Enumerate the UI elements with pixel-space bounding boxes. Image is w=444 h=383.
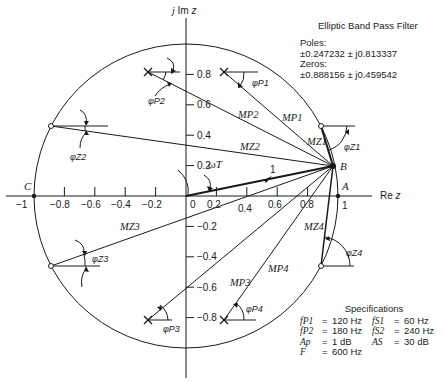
svg-text:−0.8: −0.8 xyxy=(50,199,70,210)
svg-text:φP4: φP4 xyxy=(246,304,263,314)
unit-length-label: 1 xyxy=(270,164,276,175)
svg-text:φP1: φP1 xyxy=(252,78,269,88)
spec-symbol: fP1 xyxy=(300,316,322,327)
svg-text:0: 0 xyxy=(190,199,196,210)
svg-text:φZ1: φZ1 xyxy=(344,142,360,152)
zero-z4-icon xyxy=(319,264,324,269)
zero-z1-icon xyxy=(319,124,324,129)
poles-label: Poles: xyxy=(300,38,397,49)
svg-text:φZ2: φZ2 xyxy=(70,152,86,162)
svg-text:MP4: MP4 xyxy=(267,263,289,274)
svg-text:0.6: 0.6 xyxy=(268,199,282,210)
svg-text:−0.6: −0.6 xyxy=(197,282,217,293)
point-b-label: B xyxy=(340,160,347,172)
imag-axis-label: j Im z xyxy=(170,5,196,16)
svg-text:MZ1: MZ1 xyxy=(306,136,327,147)
point-a-dot xyxy=(336,194,340,198)
svg-text:MZ3: MZ3 xyxy=(119,221,140,232)
point-c-label: C xyxy=(24,180,32,192)
vector-mz3 xyxy=(51,166,333,266)
spec-value: 180 Hz xyxy=(332,326,362,337)
svg-text:0.4: 0.4 xyxy=(197,130,211,141)
svg-text:MP3: MP3 xyxy=(229,277,250,288)
svg-text:φP2: φP2 xyxy=(148,96,165,106)
svg-text:0.4: 0.4 xyxy=(238,203,252,214)
svg-text:−0.2: −0.2 xyxy=(197,221,217,232)
svg-text:−0.4: −0.4 xyxy=(111,199,131,210)
spec-symbol: fS2 xyxy=(372,326,394,337)
svg-text:−0.6: −0.6 xyxy=(81,199,101,210)
specifications-heading: Specifications xyxy=(304,304,444,315)
omega-t-label: ωT xyxy=(208,158,223,170)
specifications-panel: Specifications fP1=120 Hz fS1=60 Hz fP2=… xyxy=(300,304,444,358)
svg-text:−0.4: −0.4 xyxy=(197,251,217,262)
spec-symbol: Ap xyxy=(300,337,322,348)
svg-text:−1: −1 xyxy=(16,199,28,210)
spec-symbol: fS1 xyxy=(372,316,394,327)
roots-panel: Poles: ±0.247232 ± j0.813337 Zeros: ±0.8… xyxy=(300,38,397,80)
omega-t-leader xyxy=(204,175,210,188)
zero-z2-icon xyxy=(49,124,54,129)
vector-mz2 xyxy=(51,126,333,166)
svg-text:φP3: φP3 xyxy=(163,324,180,334)
svg-text:0.8: 0.8 xyxy=(197,69,211,80)
svg-text:1: 1 xyxy=(342,200,348,211)
spec-value: 600 Hz xyxy=(332,347,362,358)
zeros-value: ±0.888156 ± j0.459542 xyxy=(300,70,397,81)
point-a-label: A xyxy=(341,180,349,192)
real-axis-label: Re z xyxy=(380,190,401,201)
point-c-dot xyxy=(32,194,36,198)
spec-symbol: F xyxy=(300,347,322,358)
svg-text:−0.2: −0.2 xyxy=(142,199,162,210)
svg-text:MP1: MP1 xyxy=(281,112,302,123)
spec-value: 240 Hz xyxy=(404,326,434,337)
spec-row: fP2=180 Hz fS2=240 Hz xyxy=(300,326,444,337)
point-b-dot xyxy=(330,163,336,169)
svg-text:φZ3: φZ3 xyxy=(92,254,108,264)
svg-text:−0.8: −0.8 xyxy=(197,312,217,323)
spec-value: 30 dB xyxy=(404,337,429,348)
svg-text:φZ4: φZ4 xyxy=(346,248,362,258)
svg-text:MZ4: MZ4 xyxy=(303,221,325,232)
zero-z3-icon xyxy=(49,264,54,269)
spec-row: F=600 Hz xyxy=(300,347,444,358)
omega-t-arc xyxy=(178,170,188,195)
svg-text:MZ2: MZ2 xyxy=(239,141,261,152)
spec-symbol: AS xyxy=(372,337,394,348)
x-tick-labels: −1 −0.8 −0.6 −0.4 −0.2 0 0.2 0.4 0.6 0.8… xyxy=(16,199,348,214)
figure-title: Elliptic Band Pass Filter xyxy=(318,20,418,31)
svg-text:0.8: 0.8 xyxy=(300,199,314,210)
spec-symbol: fP2 xyxy=(300,326,322,337)
svg-text:MP2: MP2 xyxy=(237,109,259,120)
zeros-label: Zeros: xyxy=(300,59,397,70)
